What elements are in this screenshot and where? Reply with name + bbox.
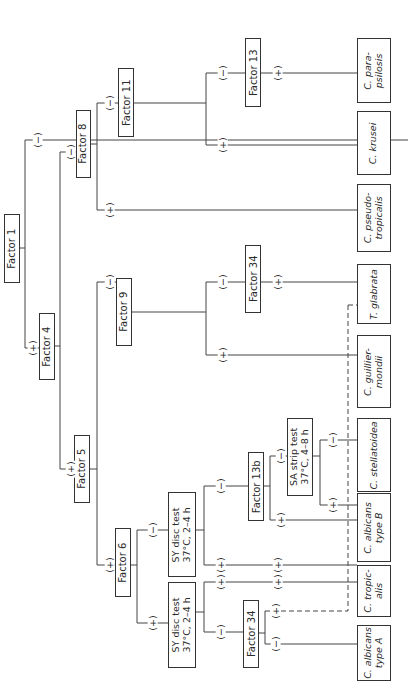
- sign-f13b-plus: (+): [276, 511, 286, 528]
- node-label: Factor 6: [117, 542, 129, 582]
- factor-1-node: Factor 1: [4, 214, 20, 283]
- leaf-label: C. tropic-alis: [363, 569, 385, 612]
- sign-f9-minus: (−): [218, 273, 228, 290]
- sign-sa-plus: (+): [328, 496, 338, 513]
- leaf-label: C. para-psilosis: [363, 52, 385, 90]
- sy-disc-test-lower-node: SY disc test37°C, 2–4 h: [168, 582, 196, 668]
- factor-34-top-node: Factor 34: [245, 245, 261, 313]
- leaf-label: C. stellatoidea: [369, 421, 380, 489]
- leaf-label: C. krusei: [369, 122, 380, 164]
- leaf-c-pseudotropicalis: C. pseudo-tropicalis: [357, 184, 391, 252]
- leaf-c-guilliermondii: C. guillier-mondii: [357, 335, 391, 408]
- leaf-label: T. glabrata: [369, 269, 380, 320]
- label-line: 37°C, 4–8 h: [300, 428, 311, 486]
- sign-f8-plus: (+): [105, 201, 115, 218]
- leaf-t-glabrata: T. glabrata: [357, 264, 391, 324]
- leaf-c-tropicalis: C. tropic-alis: [357, 565, 391, 617]
- node-label: SY disc test37°C, 2–4 h: [171, 507, 193, 562]
- sign-f5-plus: (+): [105, 556, 115, 573]
- factor-34-low-node: Factor 34: [243, 600, 259, 668]
- sign-f34low-plus: (+): [271, 602, 281, 619]
- leaf-label: C. pseudo-tropicalis: [363, 193, 385, 244]
- label-line: 37°C, 2–4 h: [182, 597, 193, 652]
- node-label: Factor 13b: [250, 460, 262, 513]
- node-label: Factor 34: [245, 611, 257, 658]
- factor-13b-node: Factor 13b: [248, 452, 264, 521]
- label-line: type B: [374, 502, 385, 554]
- label-line: C. pseudo-: [363, 193, 374, 244]
- leaf-c-albicans-type-b: C. albicanstype B: [357, 493, 391, 562]
- node-label: SY disc test37°C, 2–4 h: [171, 597, 193, 652]
- node-label: Factor 11: [120, 79, 132, 126]
- factor-9-node: Factor 9: [116, 278, 132, 346]
- node-label: Factor 1: [6, 228, 18, 268]
- leaf-label: C. albicanstype B: [363, 502, 385, 554]
- label-line: 37°C, 2–4 h: [182, 507, 193, 562]
- sign-syl-plus: (+): [216, 573, 226, 590]
- factor-4-node: Factor 4: [39, 313, 55, 380]
- sign-f8-minus: (−): [105, 94, 115, 111]
- sign-f11-minus: (−): [218, 64, 228, 81]
- sign-syu-plus: (+): [216, 556, 226, 573]
- leaf-c-stellatoidea: C. stellatoidea: [357, 418, 391, 492]
- node-label: Factor 9: [118, 292, 130, 332]
- leaf-label: C. guillier-mondii: [363, 348, 385, 396]
- sign-f6-minus: (−): [148, 521, 158, 538]
- label-line: type A: [374, 627, 385, 679]
- sign-f34low-minus: (−): [271, 635, 281, 652]
- label-line: mondii: [374, 348, 385, 396]
- sign-leaf-tropic-plus: (+): [273, 573, 283, 590]
- label-line: psilosis: [374, 52, 385, 90]
- factor-11-node: Factor 11: [118, 68, 134, 137]
- node-label: Factor 4: [41, 326, 53, 366]
- sign-f5-minus: (−): [105, 273, 115, 290]
- label-line: tropicalis: [374, 193, 385, 244]
- factor-13-node: Factor 13: [245, 38, 261, 107]
- node-label: SA strip test37°C, 4–8 h: [289, 428, 311, 486]
- factor-6-node: Factor 6: [115, 528, 131, 597]
- sign-f13-plus: (+): [273, 64, 283, 81]
- connector-lines: [0, 0, 411, 687]
- leaf-c-parapsilosis: C. para-psilosis: [357, 38, 391, 103]
- leaf-c-albicans-type-a: C. albicanstype A: [357, 625, 391, 681]
- sign-f34top-plus: (+): [273, 273, 283, 290]
- sign-f4-minus: (−): [66, 143, 76, 160]
- sign-f9-plus: (+): [218, 346, 228, 363]
- sign-syu-minus: (−): [216, 477, 226, 494]
- sa-strip-test-node: SA strip test37°C, 4–8 h: [287, 418, 313, 496]
- factor-5-node: Factor 5: [74, 435, 90, 503]
- factor-8-node: Factor 8: [76, 110, 91, 178]
- node-label: Factor 13: [247, 49, 259, 96]
- sy-disc-test-upper-node: SY disc test37°C, 2–4 h: [168, 492, 196, 577]
- node-label: Factor 34: [247, 256, 259, 303]
- sign-f11-plus: (+): [218, 136, 228, 153]
- sign-f6-plus: (+): [148, 614, 158, 631]
- sign-leaf-b-plus: (+): [273, 556, 283, 573]
- label-line: alis: [374, 569, 385, 612]
- sign-f4-plus: (+): [66, 460, 76, 477]
- leaf-c-krusei: C. krusei: [357, 111, 391, 175]
- node-label: Factor 8: [78, 124, 90, 164]
- sign-f1-minus: (−): [33, 131, 43, 148]
- leaf-label: C. albicanstype A: [363, 627, 385, 679]
- sign-f1-plus: (+): [28, 339, 38, 356]
- sign-sa-minus: (−): [328, 431, 338, 448]
- node-label: Factor 5: [76, 449, 88, 489]
- sign-syl-minus: (−): [216, 623, 226, 640]
- sign-f13b-minus: (−): [276, 447, 286, 464]
